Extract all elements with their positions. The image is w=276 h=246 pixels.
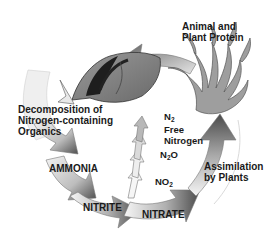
label-assimilation: Assimilation by Plants <box>204 161 263 183</box>
n2-base: N <box>164 111 171 122</box>
label-assim-line2: by Plants <box>204 172 263 183</box>
denitrification-arrow-stack <box>128 116 148 198</box>
label-nitrite: NITRITE <box>83 202 122 213</box>
label-n2: N2 <box>164 112 175 123</box>
nitrogen-cycle-diagram: Animal and Plant Protein Decomposition o… <box>0 0 276 246</box>
label-free-line1: Free <box>164 125 203 136</box>
fish-illustration <box>58 52 160 104</box>
label-protein-line1: Animal and <box>182 21 244 32</box>
no2-subscript: 2 <box>169 181 173 188</box>
label-nitrate: NITRATE <box>142 209 185 220</box>
no2-base: NO <box>155 176 169 187</box>
label-assim-line1: Assimilation <box>204 161 263 172</box>
n2o-n: N <box>160 149 167 160</box>
label-free-line2: Nitrogen <box>164 136 203 147</box>
label-free-nitrogen: Free Nitrogen <box>164 125 203 146</box>
label-animal-plant-protein: Animal and Plant Protein <box>182 21 244 43</box>
label-n2o: N2O <box>160 150 178 161</box>
label-protein-line2: Plant Protein <box>182 32 244 43</box>
label-decomposition: Decomposition of Nitrogen-containing Org… <box>18 104 113 137</box>
label-ammonia: AMMONIA <box>49 163 98 174</box>
label-decomp-line2: Nitrogen-containing <box>18 115 113 126</box>
label-no2: NO2 <box>155 177 173 188</box>
label-decomp-line1: Decomposition of <box>18 104 113 115</box>
label-decomp-line3: Organics <box>18 126 113 137</box>
n2-subscript: 2 <box>171 116 175 123</box>
n2o-o: O <box>171 149 178 160</box>
